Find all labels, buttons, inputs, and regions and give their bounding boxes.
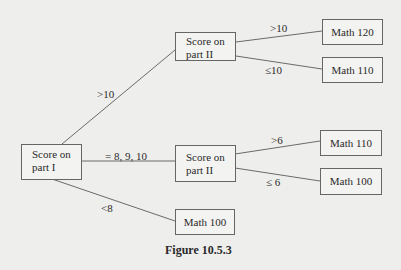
leaf-math-100-bottom: Math 100 [175,209,235,235]
node-score-part-2-top: Score on part II [175,32,236,61]
edge-label-top-lower: ≤10 [265,64,282,76]
node-text-1: Score on [186,151,235,164]
leaf-math-100-right: Math 100 [320,168,382,195]
leaf-math-110-mid: Math 110 [320,130,382,156]
node-text-1: Score on [32,148,81,161]
node-text-2: part I [32,161,81,174]
leaf-math-110-top: Math 110 [322,57,383,83]
edge-root-top [62,50,175,144]
edge-root-bottom [52,179,175,221]
edge-label-root-top: >10 [97,88,114,100]
node-text-2: part II [186,164,235,177]
edge-label-root-mid: = 8, 9, 10 [105,150,147,162]
node-text-2: part II [186,48,235,61]
edge-label-root-bottom: <8 [101,202,113,214]
figure-caption: Figure 10.5.3 [165,243,232,258]
node-text-1: Score on [186,35,235,48]
edge-label-mid-lower: ≤ 6 [266,176,280,188]
node-score-part-1: Score on part I [21,144,82,180]
edge-label-top-upper: >10 [270,22,287,34]
node-score-part-2-mid: Score on part II [175,145,236,182]
leaf-math-120: Math 120 [322,19,383,45]
edge-label-mid-upper: >6 [271,134,283,146]
